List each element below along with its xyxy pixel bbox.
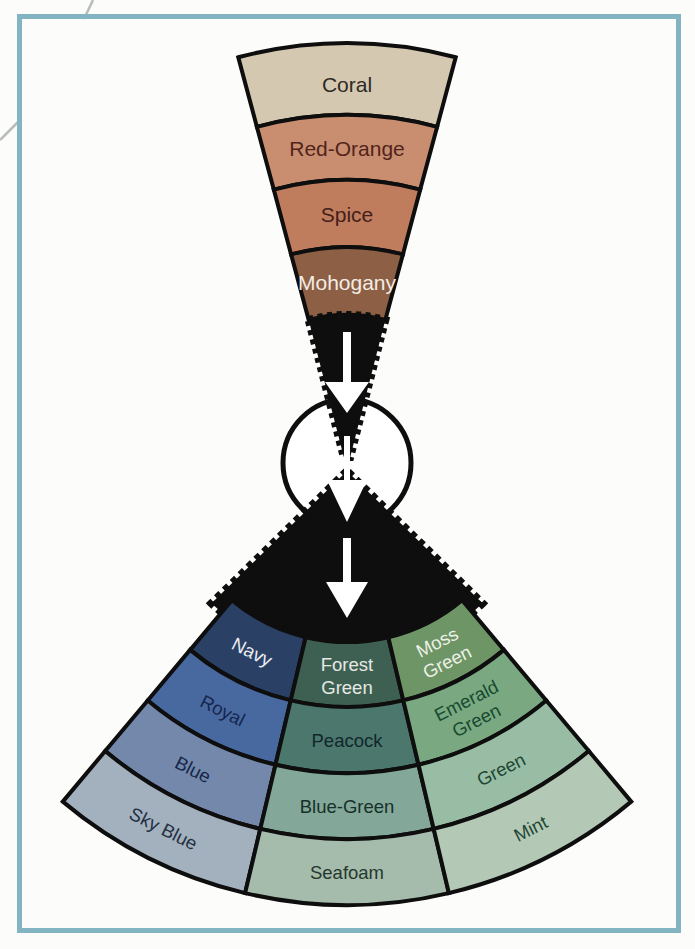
label-seafoam: Seafoam — [310, 862, 384, 883]
svg-text:Forest: Forest — [321, 654, 373, 675]
svg-text:Green: Green — [321, 677, 372, 698]
figure-page: Coral Red-Orange Spice Mohogany Navy Roy… — [0, 0, 695, 949]
label-spice: Spice — [321, 203, 374, 226]
label-peacock: Peacock — [312, 730, 384, 751]
label-coral: Coral — [322, 73, 372, 96]
label-mohogany: Mohogany — [298, 271, 397, 294]
color-wedge-diagram: Coral Red-Orange Spice Mohogany Navy Roy… — [0, 0, 695, 949]
label-blue-green: Blue-Green — [300, 796, 395, 817]
label-red-orange: Red-Orange — [289, 137, 405, 160]
